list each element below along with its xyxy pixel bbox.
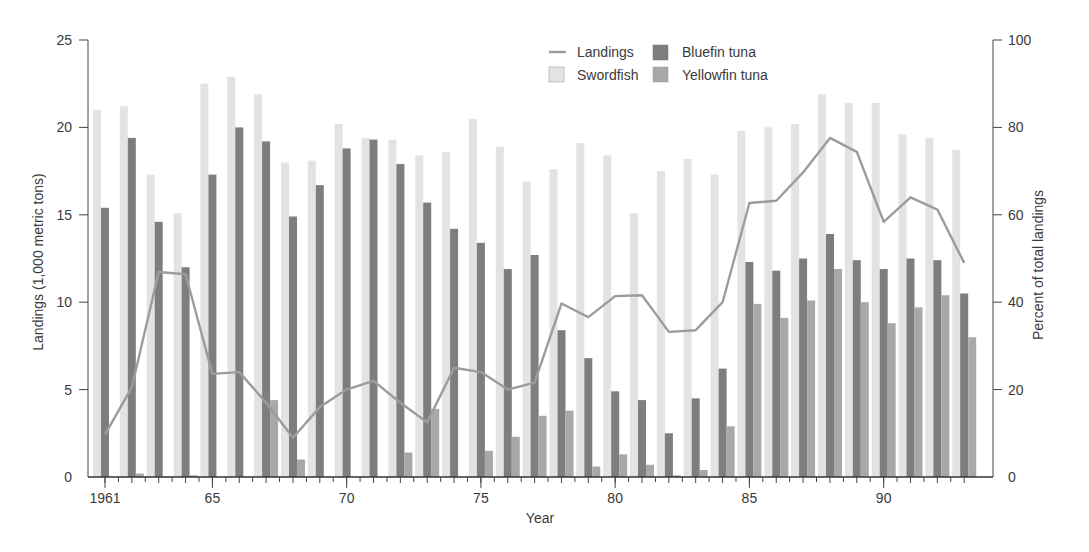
bar-bluefin-tuna	[450, 229, 458, 477]
bar-yellowfin-tuna	[700, 470, 708, 477]
x-tick-label: 75	[473, 490, 489, 506]
left-y-ticks: 0510152025	[56, 32, 88, 485]
bar-bluefin-tuna	[799, 259, 807, 478]
bar-bluefin-tuna	[182, 267, 190, 477]
bar-bluefin-tuna	[584, 358, 592, 477]
bar-bluefin-tuna	[638, 400, 646, 477]
bar-swordfish	[362, 138, 370, 477]
bar-swordfish	[174, 213, 182, 477]
y-tick-label: 20	[56, 119, 72, 135]
bar-swordfish	[93, 110, 101, 477]
bar-bluefin-tuna	[933, 260, 941, 477]
bar-swordfish	[925, 138, 933, 477]
y-tick-label: 15	[56, 207, 72, 223]
legend-item-landings: Landings	[549, 44, 634, 60]
bar-bluefin-tuna	[262, 141, 270, 477]
bar-swordfish	[872, 103, 880, 477]
x-tick-label: 90	[876, 490, 892, 506]
bar-swordfish	[899, 134, 907, 477]
bar-bluefin-tuna	[235, 127, 243, 477]
y2-tick-label: 0	[1008, 469, 1016, 485]
bar-swordfish	[120, 106, 128, 477]
x-tick-label: 1961	[89, 490, 120, 506]
bar-bluefin-tuna	[826, 234, 834, 477]
bar-bluefin-tuna	[772, 271, 780, 477]
bar-series-group	[93, 77, 976, 477]
legend-label: Bluefin tuna	[682, 44, 756, 60]
x-ticks: 1961657075808590	[89, 477, 964, 506]
y-tick-label: 0	[64, 469, 72, 485]
bar-swordfish	[308, 161, 316, 477]
bar-bluefin-tuna	[370, 140, 378, 477]
legend-label: Swordfish	[577, 67, 638, 83]
bar-bluefin-tuna	[665, 433, 673, 477]
x-tick-label: 65	[205, 490, 221, 506]
bar-yellowfin-tuna	[888, 323, 896, 477]
bar-yellowfin-tuna	[512, 437, 520, 477]
bar-yellowfin-tuna	[566, 411, 574, 477]
bar-yellowfin-tuna	[404, 453, 412, 478]
swordfish-swatch-icon	[549, 67, 564, 82]
bar-swordfish	[845, 103, 853, 477]
bar-swordfish	[576, 143, 584, 477]
bar-bluefin-tuna	[531, 255, 539, 477]
x-tick-label: 85	[742, 490, 758, 506]
bar-bluefin-tuna	[880, 269, 888, 477]
bar-swordfish	[388, 140, 396, 477]
bar-swordfish	[147, 175, 155, 477]
bar-bluefin-tuna	[128, 138, 136, 477]
bar-swordfish	[952, 150, 960, 477]
bar-bluefin-tuna	[423, 203, 431, 477]
y2-tick-label: 80	[1008, 119, 1024, 135]
bar-swordfish	[711, 175, 719, 477]
bar-yellowfin-tuna	[485, 451, 493, 477]
yellowfin-swatch-icon	[653, 67, 668, 82]
y-axis-label: Landings (1,000 metric tons)	[30, 173, 46, 350]
bar-swordfish	[200, 84, 208, 477]
bar-swordfish	[442, 152, 450, 477]
y2-axis-label: Percent of total landings	[1030, 190, 1046, 340]
y-tick-label: 5	[64, 382, 72, 398]
bar-bluefin-tuna	[155, 222, 163, 477]
bar-yellowfin-tuna	[619, 454, 627, 477]
y2-tick-label: 40	[1008, 294, 1024, 310]
bar-swordfish	[550, 169, 558, 477]
bar-yellowfin-tuna	[915, 307, 923, 477]
bar-swordfish	[227, 77, 235, 477]
bar-bluefin-tuna	[907, 259, 915, 478]
bar-yellowfin-tuna	[780, 318, 788, 477]
legend-label: Landings	[577, 44, 634, 60]
y2-tick-label: 60	[1008, 207, 1024, 223]
bar-swordfish	[737, 131, 745, 477]
bar-bluefin-tuna	[960, 294, 968, 478]
bar-bluefin-tuna	[208, 175, 216, 477]
chart-canvas: 0510152025 020406080100 1961657075808590…	[0, 0, 1089, 552]
bar-bluefin-tuna	[745, 262, 753, 477]
x-tick-label: 70	[339, 490, 355, 506]
bar-bluefin-tuna	[101, 208, 109, 477]
bar-bluefin-tuna	[692, 398, 700, 477]
bar-swordfish	[254, 94, 262, 477]
y2-tick-label: 100	[1008, 32, 1032, 48]
bar-bluefin-tuna	[853, 260, 861, 477]
bar-bluefin-tuna	[611, 391, 619, 477]
x-axis-label: Year	[526, 510, 555, 526]
legend-label: Yellowfin tuna	[682, 67, 768, 83]
legend-item-bluefin: Bluefin tuna	[653, 44, 756, 60]
bar-swordfish	[415, 155, 423, 477]
bar-bluefin-tuna	[343, 148, 351, 477]
bar-bluefin-tuna	[558, 330, 566, 477]
bar-swordfish	[469, 119, 477, 477]
legend: Landings Bluefin tuna Swordfish Yellowfi…	[549, 44, 768, 83]
bar-yellowfin-tuna	[539, 416, 547, 477]
bar-swordfish	[603, 155, 611, 477]
bar-bluefin-tuna	[316, 185, 324, 477]
bar-swordfish	[630, 213, 638, 477]
bar-bluefin-tuna	[477, 243, 485, 477]
x-tick-label: 80	[607, 490, 623, 506]
bar-yellowfin-tuna	[431, 409, 439, 477]
bar-yellowfin-tuna	[727, 426, 735, 477]
bar-yellowfin-tuna	[753, 304, 761, 477]
bar-swordfish	[684, 159, 692, 477]
bar-bluefin-tuna	[719, 369, 727, 477]
